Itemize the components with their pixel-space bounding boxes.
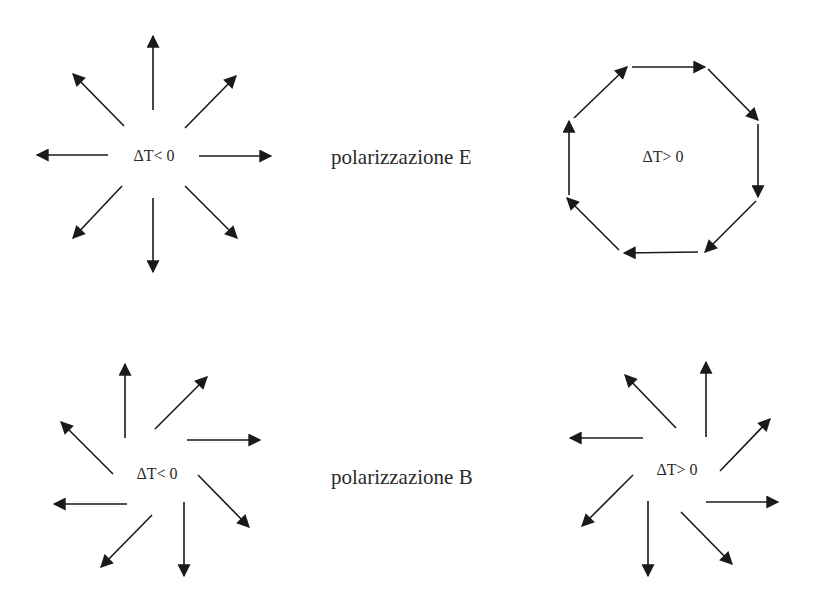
arrow-icon [720,419,770,471]
b-mode-hot-condition-label: ΔT> 0 [656,462,697,478]
arrow-icon [61,422,113,474]
arrow-icon [625,375,676,428]
arrow-icon [73,186,122,238]
arrow-icon [185,76,236,128]
polarization-diagram [0,0,815,601]
arrow-icon [73,74,124,126]
e-polarization-label: polarizzazione E [331,147,472,168]
arrow-icon [155,377,207,429]
e-mode-cold-condition-label: ΔT< 0 [133,148,174,164]
arrow-icon [582,475,633,526]
arrow-icon [681,512,732,564]
b-mode-cold-condition-label: ΔT< 0 [136,466,177,482]
b-polarization-label: polarizzazione B [331,467,473,488]
arrow-icon [567,198,619,250]
arrow-icon [705,201,756,252]
arrow-icon [101,515,152,567]
arrow-icon [574,67,627,118]
arrow-icon [624,252,698,253]
e-mode-hot-condition-label: ΔT> 0 [642,149,683,165]
arrow-icon [708,69,758,120]
arrow-icon [185,186,237,238]
arrow-icon [198,475,249,527]
